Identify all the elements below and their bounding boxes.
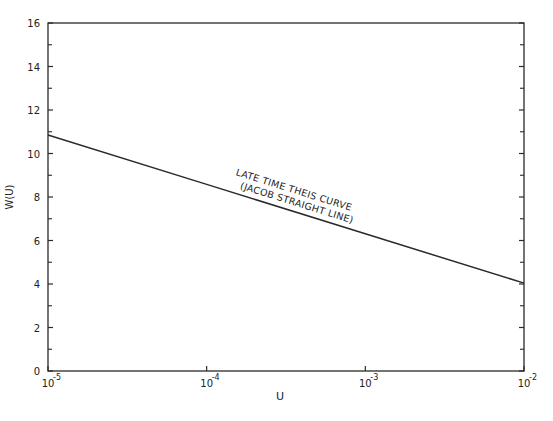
x-axis-label: U: [276, 390, 284, 403]
x-tick-exponent: -3: [370, 373, 378, 382]
series-line: [48, 135, 524, 283]
y-tick-label: 4: [34, 279, 40, 290]
series: [48, 135, 524, 283]
y-tick-label: 16: [27, 18, 40, 29]
x-axis: 10-510-410-310-2: [42, 366, 537, 389]
annotations: LATE TIME THEIS CURVE(JACOB STRAIGHT LIN…: [235, 166, 356, 225]
y-axis-label: W(U): [4, 184, 15, 209]
y-tick-label: 8: [34, 192, 40, 203]
chart: 0246810121416 10-510-410-310-2 LATE TIME…: [0, 0, 553, 421]
y-tick-label: 0: [34, 366, 40, 377]
x-tick-exponent: -2: [529, 373, 537, 382]
y-tick-label: 10: [27, 149, 40, 160]
y-tick-label: 6: [34, 236, 40, 247]
y-tick-label: 12: [27, 105, 40, 116]
y-tick-label: 2: [34, 323, 40, 334]
x-tick-exponent: -5: [53, 373, 61, 382]
x-tick-exponent: -4: [212, 373, 220, 382]
y-tick-label: 14: [27, 62, 40, 73]
